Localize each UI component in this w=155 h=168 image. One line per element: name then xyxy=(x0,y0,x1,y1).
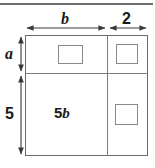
inner-square-top-left xyxy=(58,45,83,64)
vertical-divider xyxy=(107,35,108,156)
horizontal-divider xyxy=(25,73,148,74)
dimension-label-b-top: b xyxy=(61,11,69,27)
area-label-bottom-left: 5b xyxy=(54,105,70,121)
inner-square-top-right xyxy=(116,44,138,64)
dimension-label-a-left: a xyxy=(5,46,13,62)
figure-container: b 2 a 5 5b xyxy=(0,0,155,168)
area-label-variable: b xyxy=(62,105,70,121)
inner-square-bottom-right xyxy=(115,104,138,125)
dimension-label-2-top: 2 xyxy=(122,11,131,27)
dimension-label-5-left: 5 xyxy=(5,106,14,122)
